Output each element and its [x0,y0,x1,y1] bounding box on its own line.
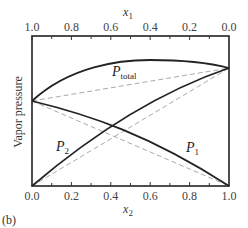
top-tick-labels: 1.0 0.8 0.6 0.4 0.2 0.0 [25,20,237,34]
top-tick-label: 0.0 [222,20,237,34]
top-tick-label: 1.0 [25,20,40,34]
top-axis-title: x1 [122,5,133,21]
p2-label: P2 [55,139,69,156]
bottom-tick-labels: 0.0 0.2 0.4 0.6 0.8 1.0 [25,189,237,203]
y-axis-title: Vapor pressure [11,76,25,148]
vapor-pressure-chart: 1.0 0.8 0.6 0.4 0.2 0.0 x1 0.0 0.2 0.4 0… [0,0,248,228]
top-tick-label: 0.2 [182,20,197,34]
bottom-tick-label: 0.8 [182,189,197,203]
ptotal-label: Ptotal [111,64,137,81]
bottom-tick-label: 1.0 [222,189,237,203]
top-tick-label: 0.6 [103,20,118,34]
bottom-tick-label: 0.2 [64,189,79,203]
plot-frame [32,36,229,186]
bottom-tick-label: 0.0 [25,189,40,203]
top-tick-label: 0.8 [64,20,79,34]
panel-label: (b) [2,213,16,227]
top-tick-label: 0.4 [143,20,158,34]
bottom-axis-title: x2 [122,202,133,218]
p1-label: P1 [185,140,199,157]
bottom-tick-label: 0.6 [143,189,158,203]
bottom-tick-label: 0.4 [103,189,118,203]
